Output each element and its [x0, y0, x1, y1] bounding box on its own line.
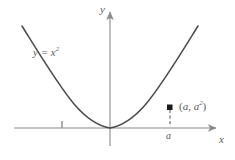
point-annotation-label: (a, a2)	[179, 101, 206, 112]
curve-equation-equals: =	[38, 46, 51, 58]
point-marker	[167, 105, 173, 111]
point-close-paren: )	[203, 100, 207, 112]
curve-equation-label: y = x2	[33, 47, 59, 58]
parabola-figure: y = x2 (a, a2) y x a	[0, 0, 235, 160]
x-axis-label: x	[219, 134, 224, 145]
y-axis-label: y	[100, 4, 105, 15]
x-axis-tick-label-a: a	[166, 131, 171, 141]
curve-equation-exponent: 2	[56, 45, 59, 52]
graph-canvas	[0, 0, 235, 160]
